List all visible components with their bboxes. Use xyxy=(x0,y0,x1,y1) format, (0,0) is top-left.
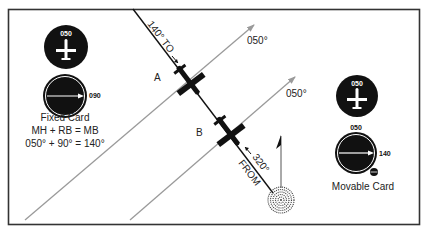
fixed-card-calculation: 050° + 90° = 140° xyxy=(25,138,104,149)
fixed-card-formula: MH + RB = MB xyxy=(31,125,99,136)
fixed-card-heading-indicator: 050 xyxy=(44,25,88,69)
fixed-card-needle-value: 090 xyxy=(89,92,101,99)
adf-diagram: 050° 050° 140° TO 320° FROM A B xyxy=(0,0,428,234)
movable-card-needle-value: 140 xyxy=(379,150,391,157)
fixed-heading-value: 050 xyxy=(60,30,72,37)
airplane-a-label: A xyxy=(154,72,161,83)
card-adjust-knob-icon xyxy=(370,168,378,176)
fixed-card-caption: Fixed Card xyxy=(41,112,90,123)
movable-card-adf-indicator xyxy=(335,132,377,174)
north-arrow-icon xyxy=(276,135,281,188)
bearing-to-label: 140° TO xyxy=(145,19,176,55)
ndb-station-icon xyxy=(268,187,294,213)
movable-card-top-value: 050 xyxy=(350,124,362,131)
movable-card-caption: Movable Card xyxy=(332,181,394,192)
airplane-b-icon xyxy=(205,108,251,155)
movable-card-heading-indicator: 050 xyxy=(336,75,378,117)
heading-line-1-label: 050° xyxy=(247,35,268,46)
movable-heading-value: 050 xyxy=(351,80,363,87)
airplane-a-icon xyxy=(165,57,211,104)
heading-line-2-label: 050° xyxy=(286,88,307,99)
airplane-b-label: B xyxy=(196,127,203,138)
